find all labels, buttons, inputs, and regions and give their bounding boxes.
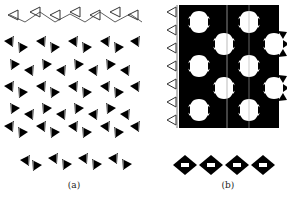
tetrahedral-layer-diagram-a	[0, 0, 145, 198]
filled-tetrahedra-layers	[4, 36, 140, 138]
caption-a: (a)	[54, 180, 94, 190]
tetrahedral-framework-diagram-b	[145, 0, 287, 198]
single-chain-b	[173, 155, 275, 175]
panel-a: (a)	[0, 0, 145, 198]
single-chain	[20, 153, 132, 171]
panel-b: (b)	[145, 0, 287, 198]
caption-b: (b)	[208, 180, 248, 190]
open-tetrahedra-column	[167, 5, 177, 128]
tetrahedral-rings-framework	[179, 5, 287, 128]
open-tetrahedra-row	[8, 7, 142, 22]
